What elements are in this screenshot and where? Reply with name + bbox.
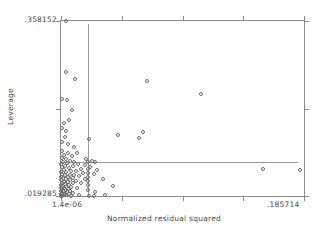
data-point [95,168,99,172]
x-axis-tick [243,16,244,21]
data-point [75,151,79,155]
data-point [81,171,85,175]
data-point [145,79,149,83]
data-point [73,77,77,81]
data-point [93,160,97,164]
data-point [60,97,64,101]
data-point [66,151,70,155]
y-axis-max-label: .358152 [25,15,57,24]
data-point [79,181,83,185]
x-axis-tick [304,196,305,201]
data-point [103,193,107,197]
y-axis-tick [304,109,309,110]
data-point [62,121,66,125]
x-axis-tick [61,16,62,21]
data-point [101,177,105,181]
data-point [59,194,63,198]
x-axis-min-label: 1.4e-06 [52,200,82,209]
data-point [63,135,67,139]
x-axis-tick [122,196,123,201]
data-point [261,167,265,171]
x-axis-tick [122,16,123,21]
data-point [70,108,74,112]
data-point [87,194,91,198]
data-point [199,92,203,96]
data-point [111,184,115,188]
data-point [69,194,73,198]
data-point [75,186,79,190]
data-point [76,162,80,166]
data-point [137,136,141,140]
data-point [77,174,81,178]
y-axis-min-label: .019285 [25,189,57,198]
data-point [83,163,87,167]
data-point [64,129,68,133]
data-point [64,19,68,23]
data-point [92,172,96,176]
data-point [71,164,75,168]
data-point [67,118,71,122]
data-point [64,70,68,74]
x-axis-tick [183,16,184,21]
plot-frame [60,20,305,197]
data-point [65,98,69,102]
data-point [141,130,145,134]
data-point [64,193,68,197]
data-point [77,193,81,197]
leverage-plot: .358152 .019285 1.4e-06 .185714 Normaliz… [0,0,328,232]
data-point [66,142,70,146]
data-point [298,168,302,172]
data-point [87,137,91,141]
y-axis-title: Leverage [6,77,15,137]
data-point [60,140,64,144]
x-axis-tick [243,196,244,201]
x-axis-max-label: .185714 [267,200,299,209]
x-axis-title: Normalized residual squared [0,214,328,223]
data-point [86,188,90,192]
y-axis-tick [56,109,61,110]
data-point [92,194,96,198]
data-point [116,133,120,137]
x-axis-tick [304,16,305,21]
data-point [72,145,76,149]
y-axis-tick [304,21,309,22]
data-point [86,183,90,187]
x-axis-tick [183,196,184,201]
